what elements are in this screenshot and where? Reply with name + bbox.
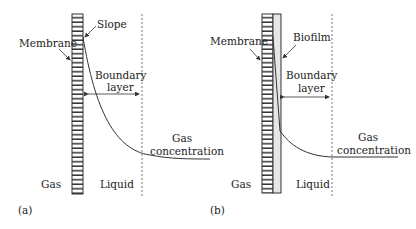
panel-b-tag: (b) bbox=[210, 204, 225, 216]
panel-a: Slope Membrane Boundary layer Gas concen… bbox=[18, 14, 224, 216]
gas-concentration-label-line2: concentration bbox=[337, 144, 411, 156]
biofilm bbox=[273, 14, 281, 193]
slope-arrow bbox=[85, 26, 96, 37]
diagram-canvas: Slope Membrane Boundary layer Gas concen… bbox=[0, 0, 416, 229]
liquid-region-label: Liquid bbox=[100, 178, 134, 190]
gas-concentration-label-line2: concentration bbox=[150, 145, 224, 157]
membrane-label: Membrane bbox=[19, 37, 77, 49]
membrane-label: Membrane bbox=[210, 35, 268, 47]
gas-region-label: Gas bbox=[231, 178, 251, 190]
liquid-region-label: Liquid bbox=[296, 178, 330, 190]
slope-label: Slope bbox=[97, 18, 127, 30]
biofilm-label: Biofilm bbox=[293, 31, 331, 43]
panel-a-tag: (a) bbox=[18, 204, 32, 216]
panel-b: Membrane Biofilm Boundary layer Gas conc… bbox=[210, 14, 411, 216]
boundary-label-line2: layer bbox=[107, 81, 135, 93]
membrane-arrow bbox=[59, 49, 70, 60]
membrane-arrow bbox=[250, 49, 260, 60]
boundary-label-line1: Boundary bbox=[286, 69, 338, 81]
boundary-label-line1: Boundary bbox=[95, 69, 147, 81]
biofilm-arrow bbox=[283, 45, 296, 58]
gas-region-label: Gas bbox=[41, 178, 61, 190]
gas-concentration-label-line1: Gas bbox=[358, 131, 378, 143]
gas-concentration-label-line1: Gas bbox=[172, 132, 192, 144]
boundary-label-line2: layer bbox=[298, 82, 326, 94]
